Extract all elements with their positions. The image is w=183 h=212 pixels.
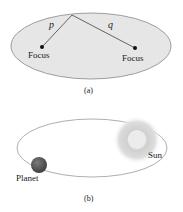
focus-right-label: Focus bbox=[122, 53, 144, 63]
focus-left-label: Focus bbox=[28, 50, 50, 60]
figure-a: p q Focus Focus (a) bbox=[11, 13, 171, 95]
caption-a: (a) bbox=[84, 86, 93, 95]
planet-label: Planet bbox=[16, 173, 39, 183]
caption-b: (b) bbox=[84, 194, 94, 203]
ellipse-a bbox=[11, 13, 171, 79]
focus-right-dot bbox=[133, 46, 137, 50]
sun-core bbox=[128, 130, 146, 148]
sun-label: Sun bbox=[148, 150, 163, 160]
focus-left-dot bbox=[40, 45, 44, 49]
figure-b: Sun Planet (b) bbox=[16, 116, 167, 203]
distance-q-label: q bbox=[108, 19, 113, 30]
distance-p-label: p bbox=[48, 19, 54, 30]
planet bbox=[31, 157, 47, 173]
kepler-diagram: p q Focus Focus (a) Sun Planet (b) bbox=[0, 0, 183, 212]
